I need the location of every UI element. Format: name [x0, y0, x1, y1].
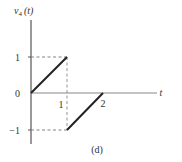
x-tick-label-1: 1	[59, 99, 64, 110]
x-tick-label-2: 2	[101, 98, 106, 109]
x-axis-label: t	[160, 87, 163, 98]
y-axis-label: v4(t)	[14, 5, 34, 18]
waveform-diagram: v4(t) 1 0 −1 1 2 t (d)	[0, 0, 182, 162]
ramp-segment-2	[67, 93, 103, 130]
ramp-segment-1	[31, 57, 67, 93]
y-tick-label-0: 0	[15, 88, 20, 99]
y-tick-label-minus1: −1	[9, 125, 20, 136]
figure-caption: (d)	[91, 144, 103, 156]
y-tick-label-1: 1	[15, 52, 20, 63]
